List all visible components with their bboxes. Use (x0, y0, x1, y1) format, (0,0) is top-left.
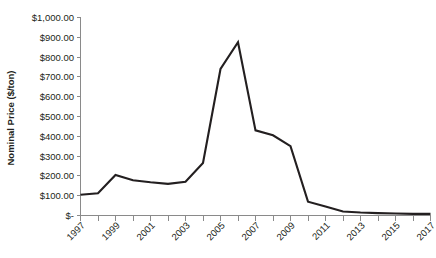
y-axis-tick-marks (77, 18, 81, 216)
y-axis-tick-labels: $-$100.00$200.00$300.00$400.00$500.00$60… (32, 12, 74, 221)
x-tick-label: 2011 (310, 220, 332, 242)
x-tick-label: 2015 (379, 220, 402, 243)
y-axis-title-group: Nominal Price ($/ton) (5, 70, 16, 165)
x-tick-label: 1999 (99, 220, 122, 243)
y-tick-label: $200.00 (40, 170, 74, 181)
x-tick-label: 2017 (414, 220, 436, 243)
x-tick-label: 2007 (239, 220, 262, 243)
y-tick-label: $300.00 (40, 151, 74, 162)
x-tick-label: 2003 (169, 220, 192, 243)
y-tick-label: $500.00 (40, 111, 74, 122)
y-tick-label: $900.00 (40, 32, 74, 43)
y-axis-title: Nominal Price ($/ton) (5, 70, 16, 165)
y-tick-label: $800.00 (40, 52, 74, 63)
x-axis-tick-marks (81, 216, 431, 221)
x-tick-label: 1997 (64, 220, 87, 243)
y-tick-label: $100.00 (40, 190, 74, 201)
x-tick-label: 2009 (274, 220, 297, 243)
y-tick-label: $1,000.00 (32, 12, 74, 23)
x-tick-label: 2001 (134, 220, 157, 243)
y-tick-label: $600.00 (40, 91, 74, 102)
y-tick-label: $400.00 (40, 131, 74, 142)
chart-canvas: Nominal Price ($/ton) $-$100.00$200.00$3… (0, 0, 436, 258)
y-tick-label: $- (66, 210, 74, 221)
y-tick-label: $700.00 (40, 71, 74, 82)
x-tick-label: 2005 (204, 220, 227, 243)
x-axis-tick-labels: 1997199920012003200520072009201120132015… (64, 220, 436, 243)
line-chart: Nominal Price ($/ton) $-$100.00$200.00$3… (0, 0, 436, 258)
x-tick-label: 2013 (344, 220, 367, 243)
series-line-nominal-price (81, 42, 431, 214)
